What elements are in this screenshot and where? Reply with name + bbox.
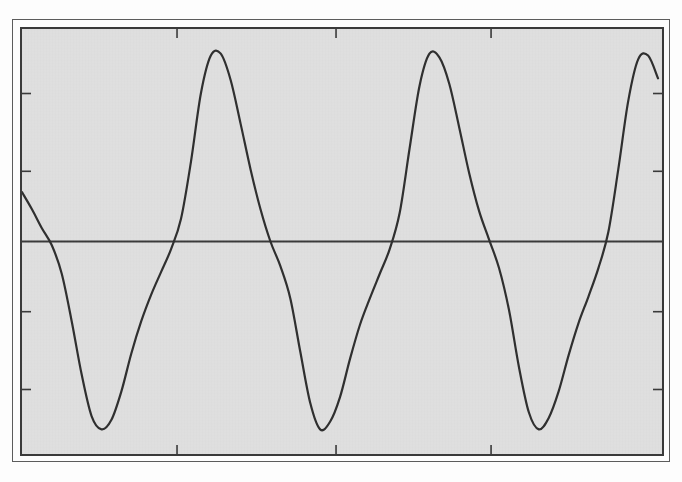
plot-area-frame bbox=[20, 27, 664, 456]
scanned-page: of the signal is shown in the figure bel… bbox=[0, 0, 682, 482]
waveform-plot bbox=[22, 29, 662, 454]
figure-outer-frame bbox=[12, 19, 670, 462]
waveform-curve bbox=[22, 51, 658, 431]
